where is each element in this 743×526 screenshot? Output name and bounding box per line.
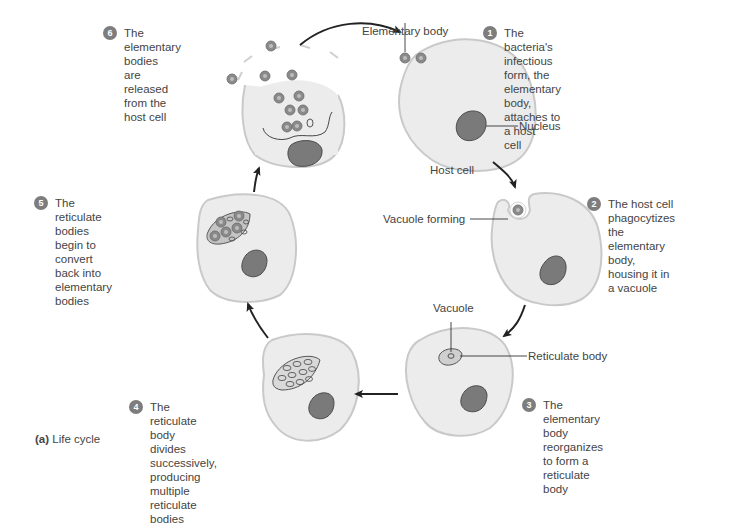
caption-text: Life cycle (49, 433, 100, 445)
host-cell-5 (197, 194, 296, 302)
label-elementary-body: Elementary body (362, 25, 448, 37)
step-4-text: The reticulate body divides successively… (150, 400, 217, 526)
label-nucleus: Nucleus (519, 120, 561, 132)
step-1-text: The bacteria's infectious form, the elem… (504, 26, 561, 152)
step-6-text: The elementary bodies are released from … (124, 26, 181, 124)
step-4-badge: 4 (129, 400, 143, 414)
label-host-cell: Host cell (430, 164, 474, 176)
elementary-body (513, 205, 523, 215)
host-cell-6 (227, 41, 344, 167)
step-3-badge: 3 (522, 398, 536, 412)
figure-caption: (a) Life cycle (35, 433, 100, 445)
elementary-body (416, 53, 426, 63)
label-vacuole-forming: Vacuole forming (383, 213, 465, 225)
step-5-text: The reticulate bodies begin to convert b… (55, 196, 112, 308)
elementary-body (400, 53, 410, 63)
label-reticulate-body: Reticulate body (528, 350, 607, 362)
host-cell-4 (263, 334, 359, 441)
label-vacuole: Vacuole (433, 302, 474, 314)
step-6-badge: 6 (103, 26, 117, 40)
step-2-text: The host cell phagocytizes the elementar… (608, 197, 675, 295)
step-5-badge: 5 (34, 196, 48, 210)
step-3-text: The elementary body reorganizes to form … (543, 398, 603, 496)
caption-prefix: (a) (35, 433, 49, 445)
step-1-badge: 1 (483, 26, 497, 40)
host-cell-2 (470, 193, 601, 305)
host-cell-3 (406, 322, 527, 436)
step-2-badge: 2 (587, 197, 601, 211)
